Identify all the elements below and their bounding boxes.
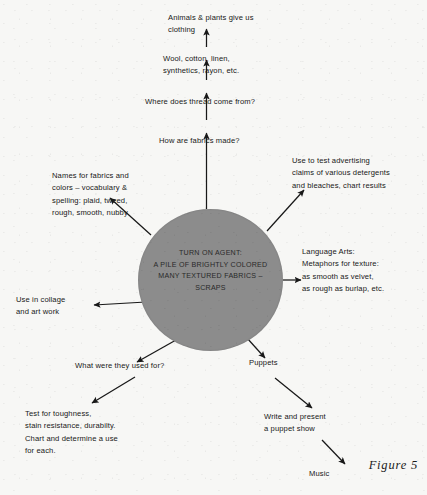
node-toughness-test: Test for toughness, stain resistance, du… [25, 408, 118, 457]
node-names-colors: Names for fabrics and colors – vocabular… [52, 170, 129, 219]
arrow-center-to-puppets [247, 338, 265, 358]
node-animals-plants: Animals & plants give us clothing [168, 12, 254, 37]
node-puppets: Puppets [249, 357, 278, 369]
arrow-center-to-advertising [267, 190, 304, 231]
figure-caption: Figure 5 [369, 458, 418, 473]
arrow-center-to-collage [94, 302, 146, 305]
node-puppet-show: Write and present a puppet show [264, 411, 326, 436]
arrow-center-to-used-for [137, 340, 176, 362]
node-used-for: What were they used for? [75, 360, 164, 372]
arrow-used-for-to-toughness [92, 377, 135, 403]
arrow-puppet-show-to-music [322, 440, 345, 464]
node-music: Music [309, 468, 329, 480]
center-node-label: TURN ON AGENT: A PILE OF BRIGHTLY COLORE… [138, 248, 283, 294]
node-fibers: Wool, cotton, linen, synthetics, rayon, … [163, 53, 239, 78]
figure-diagram: TURN ON AGENT: A PILE OF BRIGHTLY COLORE… [0, 0, 427, 495]
arrow-puppets-to-puppet-show [275, 378, 312, 408]
node-advertising: Use to test advertising claims of variou… [292, 155, 390, 192]
node-collage: Use in collage and art work [16, 294, 65, 319]
node-thread-origin: Where does thread come from? [145, 96, 255, 108]
node-language-arts: Language Arts: Metaphors for texture: as… [302, 246, 384, 295]
node-fabrics-made: How are fabrics made? [159, 135, 240, 147]
